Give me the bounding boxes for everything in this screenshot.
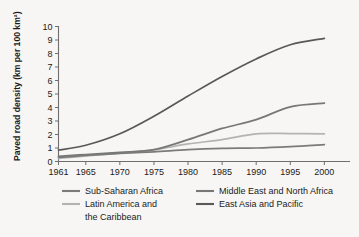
x-tick-label: 1995 [280,167,300,177]
y-tick-label: 6 [47,76,52,86]
legend-label-east-asia-and-pacific: East Asia and Pacific [219,199,304,209]
x-tick-label: 1985 [212,167,232,177]
x-tick-label: 1970 [110,167,130,177]
y-tick-label: 1 [47,143,52,153]
y-tick-label: 3 [47,116,52,126]
chart-page: Paved road density (km per 100 km²) 0123… [0,0,359,237]
y-axis-title: Paved road density (km per 100 km²) [12,11,22,161]
x-tick-label: 2000 [314,167,334,177]
y-tick-label: 9 [47,35,52,45]
x-tick-label: 1980 [178,167,198,177]
line-chart: Paved road density (km per 100 km²) 0123… [0,0,359,237]
y-tick-label: 2 [47,130,52,140]
y-tick-label: 0 [47,157,52,167]
x-tick-label: 1961 [48,167,68,177]
x-tick-label: 1975 [144,167,164,177]
legend-label-sub-saharan-africa: Sub-Saharan Africa [85,186,163,196]
legend-label-the-caribbean: the Caribbean [85,212,142,222]
y-tick-label: 5 [47,89,52,99]
x-tick-label: 1990 [246,167,266,177]
legend-label-middle-east-and-north-africa: Middle East and North Africa [219,186,333,196]
y-tick-label: 7 [47,62,52,72]
y-tick-label: 4 [47,103,52,113]
y-tick-label: 8 [47,49,52,59]
chart-background [0,0,359,237]
y-tick-label: 10 [42,22,52,32]
legend-label-latin-america-and: Latin America and [85,199,157,209]
x-tick-label: 1965 [76,167,96,177]
